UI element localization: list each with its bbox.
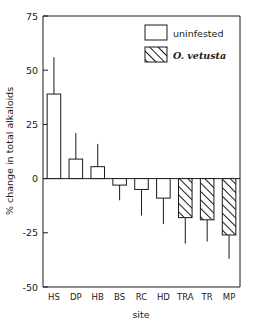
bar-hd (157, 179, 171, 199)
y-tick-label: 0 (32, 173, 38, 184)
bar-rc (135, 179, 149, 190)
bar-chart-svg: 75 50 25 0 -25 -50 HSDPHBBSRCHDTRATRMP s… (0, 0, 254, 324)
x-tick-label-bs: BS (114, 292, 125, 302)
x-tick-label-dp: DP (70, 292, 82, 302)
y-tick-label: -50 (22, 282, 38, 293)
x-tick-label-tr: TR (201, 292, 213, 302)
x-tick-label-hd: HD (157, 292, 170, 302)
y-tick-label: -25 (22, 227, 38, 238)
chart-background (0, 0, 254, 324)
legend-swatch-o-vetusta (145, 47, 167, 62)
bar-tra (178, 179, 192, 218)
x-tick-label-hb: HB (92, 292, 104, 302)
y-axis-title: % change in total alkaloids (4, 87, 15, 215)
legend-label-o-vetusta: O. vetusta (173, 50, 226, 61)
legend-swatch-uninfested (145, 25, 167, 40)
chart-figure: 75 50 25 0 -25 -50 HSDPHBBSRCHDTRATRMP s… (0, 0, 254, 324)
bar-hb (91, 167, 105, 179)
x-axis-tick-labels: HSDPHBBSRCHDTRATRMP (48, 292, 235, 302)
bar-hs (47, 94, 61, 179)
x-tick-label-tra: TRA (176, 292, 194, 302)
legend-label-uninfested: uninfested (173, 28, 223, 39)
bar-tr (200, 179, 214, 220)
x-tick-label-rc: RC (136, 292, 147, 302)
bar-dp (69, 159, 83, 179)
bar-bs (113, 179, 127, 186)
bar-mp (222, 179, 236, 235)
x-tick-label-hs: HS (48, 292, 60, 302)
x-tick-label-mp: MP (223, 292, 235, 302)
y-tick-label: 25 (26, 119, 38, 130)
y-tick-label: 75 (26, 11, 38, 22)
y-tick-label: 50 (26, 65, 38, 76)
x-axis-title: site (132, 309, 149, 320)
